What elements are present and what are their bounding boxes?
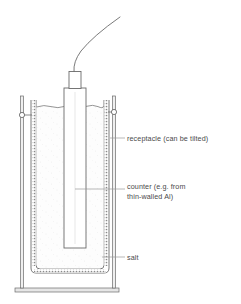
apparatus-diagram: receptacle (can be tilted) counter (e.g.… [0, 0, 241, 304]
receptacle-wall-left [32, 100, 36, 266]
label-counter-text-line2: thin-walled Al) [127, 192, 173, 201]
counter-tube [64, 88, 86, 248]
receptacle-wall-right [104, 100, 108, 266]
label-salt-text: salt [127, 253, 139, 262]
signal-cable [74, 17, 120, 72]
stand-rod-left [21, 96, 24, 288]
label-counter: counter (e.g. from thin-walled Al) [127, 182, 186, 201]
receptacle-wall-bottom [34, 269, 106, 273]
label-salt: salt [127, 253, 139, 262]
label-receptacle: receptacle (can be tilted) [127, 134, 208, 143]
connector-block [69, 72, 81, 89]
stand-base [15, 288, 119, 292]
stand-rod-right [113, 96, 116, 288]
figure-canvas: receptacle (can be tilted) counter (e.g.… [0, 0, 241, 304]
label-counter-text-line1: counter (e.g. from [127, 182, 186, 191]
label-receptacle-text: receptacle (can be tilted) [127, 134, 208, 143]
